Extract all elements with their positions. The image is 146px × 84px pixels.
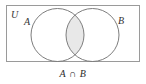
universe-label: U (11, 9, 19, 20)
set-b-label: B (118, 15, 124, 26)
set-a-label: A (23, 16, 31, 27)
figure-caption: A ∩ B (0, 68, 146, 80)
venn-diagram-figure: U A B A ∩ B (0, 0, 146, 84)
